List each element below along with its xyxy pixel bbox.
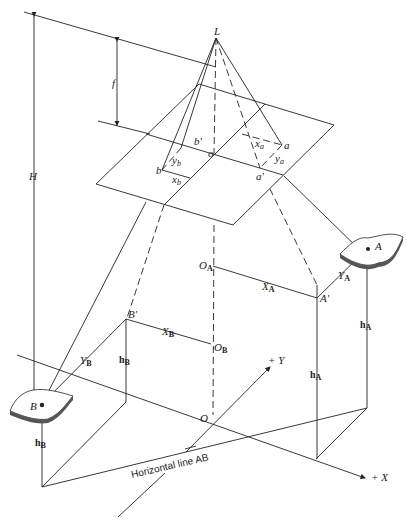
label-YA: YA [338, 269, 350, 283]
AB-overbar [185, 446, 196, 449]
label-yb: yb [171, 154, 181, 168]
label-ya: ya [274, 152, 284, 166]
label-OA: OA [199, 259, 213, 273]
label-XA: XA [261, 280, 275, 294]
label-hB-left: hB [35, 437, 47, 450]
ray-L-aprime [216, 38, 260, 168]
label-a: a [284, 139, 290, 151]
label-XB: XB [161, 325, 175, 339]
ray-to-Aprime [270, 189, 317, 285]
label-B: B [30, 400, 37, 412]
A-foot-diagonal [316, 408, 367, 459]
exposure-level-line [24, 12, 216, 67]
label-plus-X: + X [371, 471, 389, 483]
ray-L-o [214, 38, 216, 154]
label-b: b [156, 164, 162, 176]
label-hA-right: hA [360, 319, 372, 332]
ray-L-a [216, 38, 282, 145]
label-hB: hB [119, 354, 131, 367]
label-A-prime: A' [319, 292, 330, 304]
label-xa: xa [254, 137, 264, 151]
label-H: H [28, 170, 38, 182]
ray-to-Bprime [127, 205, 164, 318]
label-B-prime: B' [128, 308, 138, 320]
y-axis-arrow [186, 367, 270, 452]
ray-L-bprime [181, 38, 216, 148]
label-L: L [213, 25, 220, 37]
label-plus-Y: + Y [268, 354, 286, 366]
label-o: o [208, 147, 214, 159]
photogrammetry-diagram: L f H o a a' b b' xa ya yb xb A B A' B' … [0, 0, 417, 525]
label-a-prime: a' [256, 170, 265, 182]
label-YB: YB [80, 354, 92, 368]
label-OB: OB [214, 341, 228, 355]
label-A: A [374, 240, 382, 252]
terrain-B [10, 389, 73, 423]
plumb-line [213, 225, 214, 415]
label-b-prime: b' [194, 135, 203, 147]
ray-to-B [42, 202, 146, 404]
label-hA: hA [310, 369, 322, 382]
focal-plane-line [98, 121, 150, 134]
horizontal-line-leader [118, 473, 165, 517]
label-origin-O: O [200, 412, 208, 424]
label-f: f [112, 77, 117, 89]
